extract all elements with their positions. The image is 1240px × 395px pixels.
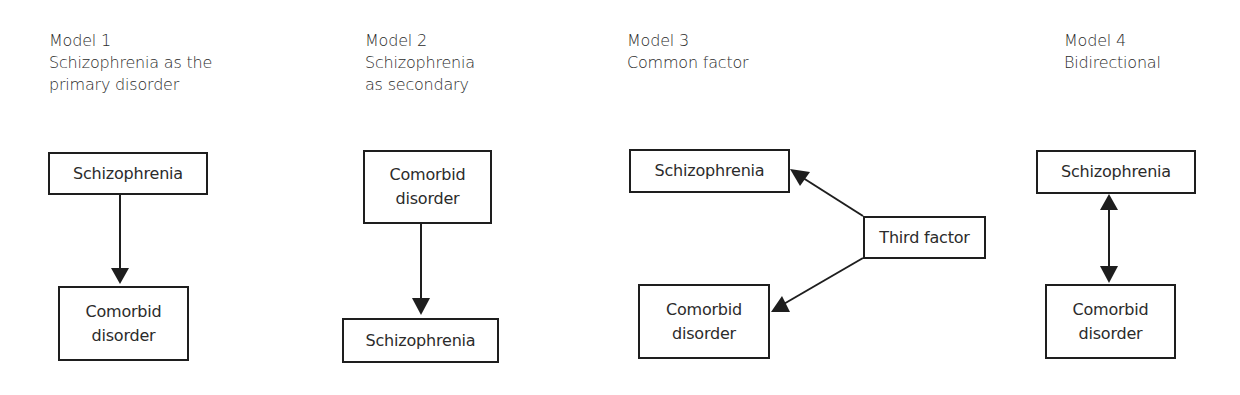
model-3-subtitle-line-1: Common factor (627, 52, 748, 74)
model-1-subtitle-line-2: primary disorder (49, 74, 212, 96)
model-3-label: Model 3 (627, 30, 748, 52)
node-label: Comorbid disorder (85, 300, 161, 348)
model-3-node-comorbid-disorder: Comorbid disorder (638, 284, 770, 359)
model-2-label: Model 2 (365, 30, 475, 52)
model-4-double-arrow (1100, 194, 1118, 283)
model-4-title: Model 4 Bidirectional (1064, 30, 1161, 74)
model-1-label: Model 1 (49, 30, 212, 52)
model-4-label: Model 4 (1064, 30, 1161, 52)
node-label: Third factor (879, 226, 969, 250)
node-label: Schizophrenia (366, 329, 476, 353)
model-1-arrow (111, 194, 129, 284)
model-2-subtitle-line-1: Schizophrenia (365, 52, 475, 74)
model-4-node-comorbid-disorder: Comorbid disorder (1045, 284, 1176, 359)
node-label: Comorbid disorder (666, 298, 742, 346)
model-3-node-third-factor: Third factor (863, 216, 986, 259)
model-1-node-schizophrenia: Schizophrenia (48, 152, 208, 195)
model-3-arrow-to-schizophrenia (790, 169, 863, 216)
node-label: Comorbid disorder (1072, 298, 1148, 346)
node-label: Schizophrenia (73, 162, 183, 186)
node-label: Comorbid disorder (389, 163, 465, 211)
model-2-subtitle-line-2: as secondary (365, 74, 475, 96)
model-2-arrow (412, 223, 430, 315)
model-2-title: Model 2 Schizophrenia as secondary (365, 30, 475, 96)
model-1-subtitle-line-1: Schizophrenia as the (49, 52, 212, 74)
node-label: Schizophrenia (1061, 160, 1171, 184)
model-3-arrow-to-comorbid (771, 258, 863, 312)
model-1-title: Model 1 Schizophrenia as the primary dis… (49, 30, 212, 96)
model-3-node-schizophrenia: Schizophrenia (629, 149, 790, 193)
model-4-subtitle-line-1: Bidirectional (1064, 52, 1161, 74)
model-2-node-schizophrenia: Schizophrenia (342, 318, 499, 363)
model-4-node-schizophrenia: Schizophrenia (1036, 150, 1196, 194)
model-3-title: Model 3 Common factor (627, 30, 748, 74)
node-label: Schizophrenia (655, 159, 765, 183)
model-2-node-comorbid-disorder: Comorbid disorder (363, 150, 492, 224)
model-1-node-comorbid-disorder: Comorbid disorder (58, 286, 189, 361)
